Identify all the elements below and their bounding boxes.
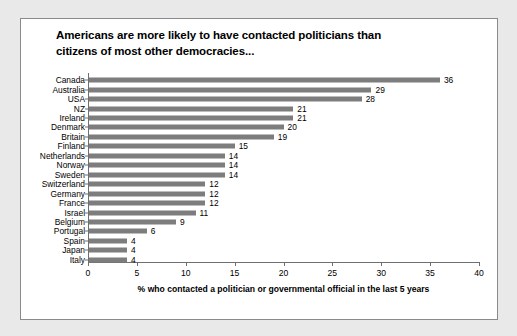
- x-axis-tick-label: 10: [181, 268, 191, 278]
- bar-row: Portugal6: [21, 227, 497, 236]
- bar: [89, 229, 147, 234]
- bar-row: Denmark20: [21, 123, 497, 132]
- bar: [89, 78, 440, 83]
- bar: [89, 248, 127, 253]
- bar-row: Australia29: [21, 85, 497, 94]
- x-axis-tick: [88, 262, 89, 266]
- bar-value-label: 19: [278, 132, 287, 141]
- bar-value-label: 6: [151, 227, 156, 236]
- x-axis-tick-label: 30: [376, 268, 386, 278]
- bar: [89, 144, 235, 149]
- plot-area: Canada36Australia29USA28NZ21Ireland21Den…: [21, 19, 497, 319]
- bar: [89, 172, 225, 177]
- bar-value-label: 15: [239, 142, 248, 151]
- bar-row: Canada36: [21, 76, 497, 85]
- bar-value-label: 29: [375, 85, 384, 94]
- x-axis-tick: [137, 262, 138, 266]
- bar: [89, 210, 196, 215]
- x-axis-tick: [381, 262, 382, 266]
- bar-value-label: 12: [209, 199, 218, 208]
- bar: [89, 87, 371, 92]
- bar: [89, 97, 362, 102]
- bar: [89, 201, 205, 206]
- bar: [89, 134, 274, 139]
- bar-row: France12: [21, 198, 497, 207]
- x-axis-tick-label: 15: [230, 268, 240, 278]
- bar-row: Finland15: [21, 142, 497, 151]
- x-axis-tick-label: 40: [474, 268, 484, 278]
- bar-value-label: 20: [288, 123, 297, 132]
- x-axis-tick-label: 20: [279, 268, 289, 278]
- bar-row: Germany12: [21, 189, 497, 198]
- bar-row: Ireland21: [21, 113, 497, 122]
- bar-value-label: 21: [297, 114, 306, 123]
- bar-row: Sweden14: [21, 170, 497, 179]
- bar: [89, 163, 225, 168]
- x-axis-tick: [284, 262, 285, 266]
- bar: [89, 106, 293, 111]
- bar-row: Italy4: [21, 255, 497, 264]
- bar: [89, 182, 205, 187]
- bar-row: Netherlands14: [21, 151, 497, 160]
- bar: [89, 116, 293, 121]
- bar: [89, 238, 127, 243]
- bar-value-label: 11: [200, 208, 209, 217]
- x-axis-label: % who contacted a politician or governme…: [88, 284, 479, 294]
- bar-row: Spain4: [21, 236, 497, 245]
- bar: [89, 153, 225, 158]
- x-axis-tick: [332, 262, 333, 266]
- x-axis-tick-label: 0: [86, 268, 91, 278]
- bar-value-label: 9: [180, 217, 185, 226]
- bar-row: Belgium9: [21, 217, 497, 226]
- bar-row: NZ21: [21, 104, 497, 113]
- bar-row: Japan4: [21, 246, 497, 255]
- bar-value-label: 36: [444, 76, 453, 85]
- bar-row: Switzerland12: [21, 179, 497, 188]
- x-axis-tick-label: 35: [425, 268, 435, 278]
- x-axis-tick-label: 5: [134, 268, 139, 278]
- bar-row: Israel11: [21, 208, 497, 217]
- x-axis-tick: [186, 262, 187, 266]
- bar: [89, 257, 127, 262]
- x-axis-tick: [479, 262, 480, 266]
- x-axis-tick-label: 25: [328, 268, 338, 278]
- bar-row: Norway14: [21, 161, 497, 170]
- bar-value-label: 28: [366, 95, 375, 104]
- bar: [89, 191, 205, 196]
- bar-row: USA28: [21, 94, 497, 103]
- bar-row: Britain19: [21, 132, 497, 141]
- bar-value-label: 4: [131, 255, 136, 264]
- bar: [89, 219, 176, 224]
- category-label: Italy: [70, 255, 85, 264]
- x-axis-tick: [235, 262, 236, 266]
- bar-value-label: 14: [229, 170, 238, 179]
- chart-figure: Americans are more likely to have contac…: [20, 18, 498, 320]
- bar: [89, 125, 284, 130]
- x-axis-tick: [430, 262, 431, 266]
